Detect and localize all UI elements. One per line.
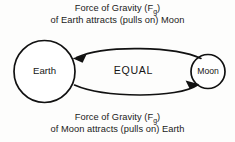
gravity-equal-forces-diagram: Force of Gravity (Fg) of Earth attracts … [0,0,235,142]
bottom-caption: Force of Gravity (Fg) of Moon attracts (… [0,112,235,135]
bottom-caption-line1: Force of Gravity (Fg) [0,112,235,124]
moon-label: Moon [190,66,226,76]
earth-label: Earth [14,65,75,76]
equal-label: EQUAL [86,64,181,76]
bottom-caption-line1-prefix: Force of Gravity (F [75,112,153,122]
bottom-caption-line1-suffix: ) [157,112,160,122]
earth-to-moon-arrow-curve [75,85,198,95]
moon-to-earth-arrow-curve [77,49,202,59]
bottom-caption-line2: of Moon attracts (pulls on) Earth [0,124,235,136]
